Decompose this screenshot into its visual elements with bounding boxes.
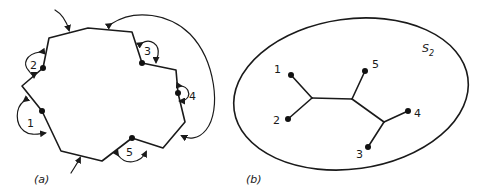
- label-5: 5: [126, 146, 133, 159]
- figure: 1 2 3 4 5 (a) S2: [0, 0, 485, 194]
- caption-b: (b): [246, 173, 262, 186]
- leaf-label-3: 3: [356, 148, 363, 161]
- point-3: [139, 60, 145, 66]
- leaf-label-5: 5: [372, 58, 379, 71]
- sphere-outline: [224, 3, 479, 184]
- label-3: 3: [144, 45, 151, 58]
- leaf-2: [285, 116, 291, 122]
- tree: [288, 71, 408, 147]
- leaf-label-1: 1: [274, 63, 281, 76]
- leaf-label-4: 4: [414, 107, 421, 120]
- arrow-rotate-4: [180, 86, 189, 101]
- panel-a: 1 2 3 4 5 (a): [17, 10, 214, 186]
- point-1: [39, 108, 45, 114]
- label-1: 1: [27, 117, 34, 130]
- label-4: 4: [189, 90, 196, 103]
- leaf-1: [288, 72, 294, 78]
- point-5: [129, 135, 135, 141]
- label-2: 2: [30, 59, 37, 72]
- point-4: [175, 90, 181, 96]
- polygon-boundary: [22, 28, 185, 161]
- leaf-label-2: 2: [273, 114, 280, 127]
- leaf-5: [362, 68, 368, 74]
- surface-label: S2: [422, 42, 434, 58]
- panel-b: S2 1 2 3 4 5 (b): [224, 3, 479, 186]
- leaf-3: [365, 144, 371, 150]
- leaf-4: [405, 108, 411, 114]
- point-2: [40, 65, 46, 71]
- arrow-big-arc: [111, 15, 215, 138]
- caption-a: (a): [34, 173, 49, 186]
- arrow-edge-bottom: [71, 158, 80, 173]
- arrow-edge-top: [55, 10, 69, 30]
